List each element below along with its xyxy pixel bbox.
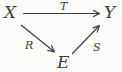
arrow-T-label: T	[60, 1, 67, 12]
arrow-S-label: S	[93, 42, 101, 53]
commutative-diagram: X Y E T R S	[0, 0, 122, 72]
arrow-R-label: R	[25, 40, 33, 51]
node-E: E	[57, 54, 69, 71]
node-X: X	[4, 4, 16, 21]
node-Y: Y	[104, 4, 115, 21]
